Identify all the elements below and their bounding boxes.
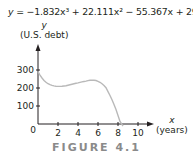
x-axis-name: (years) [156, 125, 188, 135]
origin-label: 0 [30, 125, 36, 135]
x-tick-2: 2 [55, 128, 61, 138]
y-tick-200: 200 [17, 83, 34, 93]
y-tick-300: 300 [17, 65, 34, 75]
x-tick-10: 10 [132, 128, 144, 138]
y-axis-arrow-icon [36, 44, 41, 51]
y-tick-100: 100 [17, 101, 34, 111]
figure-caption: FIGURE 4.1 [0, 141, 193, 154]
x-tick-4: 4 [75, 128, 81, 138]
x-axis-label: x (years) [156, 115, 188, 135]
x-tick-6: 6 [95, 128, 101, 138]
chart-plot: 100 200 300 0 2 4 6 8 10 [0, 0, 193, 161]
debt-curve [38, 72, 123, 126]
x-axis-arrow-icon [147, 122, 154, 127]
y-ticks: 100 200 300 0 [17, 65, 40, 135]
x-axis-var: x [156, 115, 188, 125]
x-tick-8: 8 [115, 128, 121, 138]
